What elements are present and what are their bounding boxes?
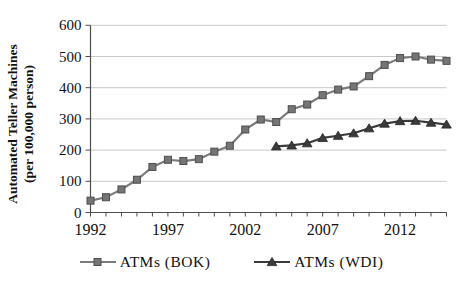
square-marker (428, 56, 435, 63)
square-marker (350, 83, 357, 90)
x-tick-label: 1992 (75, 221, 107, 238)
legend-item-wdi: ATMs (WDI) (254, 253, 383, 271)
x-tick-label: 1997 (152, 221, 184, 238)
y-tick-label: 0 (74, 205, 82, 221)
square-marker (288, 106, 295, 113)
series-line-wdi (276, 121, 446, 147)
square-marker (133, 176, 140, 183)
square-marker (164, 156, 171, 163)
y-tick-label: 200 (59, 142, 82, 158)
square-marker (443, 57, 450, 64)
square-marker (211, 148, 218, 155)
atm-line-chart-figure: Automated Teller Machines (per 100,000 p… (0, 0, 463, 289)
bok-square-marker-icon (80, 256, 116, 268)
wdi-triangle-marker-icon (254, 256, 290, 268)
y-tick-label: 100 (59, 173, 82, 189)
x-tick-label: 2012 (384, 221, 416, 238)
square-marker (149, 163, 156, 170)
square-marker (226, 142, 233, 149)
square-marker (381, 61, 388, 68)
square-marker (242, 126, 249, 133)
square-marker (335, 86, 342, 93)
square-marker (87, 197, 94, 204)
square-marker (257, 116, 264, 123)
square-marker (102, 194, 109, 201)
chart-plot-area: 010020030040050060019921997200220072012 (0, 0, 463, 289)
square-marker (180, 158, 187, 165)
y-tick-label: 400 (59, 80, 82, 96)
square-marker (195, 156, 202, 163)
y-tick-label: 300 (59, 111, 82, 127)
square-marker (118, 186, 125, 193)
y-tick-label: 500 (59, 49, 82, 65)
x-tick-label: 2007 (307, 221, 339, 238)
x-tick-label: 2002 (229, 221, 261, 238)
series-line-bok (91, 57, 447, 201)
y-tick-label: 600 (59, 17, 82, 33)
legend-label-wdi: ATMs (WDI) (294, 253, 383, 271)
square-marker (304, 101, 311, 108)
legend-label-bok: ATMs (BOK) (120, 253, 211, 271)
legend-item-bok: ATMs (BOK) (80, 253, 211, 271)
square-marker (366, 73, 373, 80)
legend: ATMs (BOK) ATMs (WDI) (0, 253, 463, 271)
square-marker (412, 53, 419, 60)
square-marker (273, 119, 280, 126)
square-marker (319, 92, 326, 99)
square-marker (397, 55, 404, 62)
